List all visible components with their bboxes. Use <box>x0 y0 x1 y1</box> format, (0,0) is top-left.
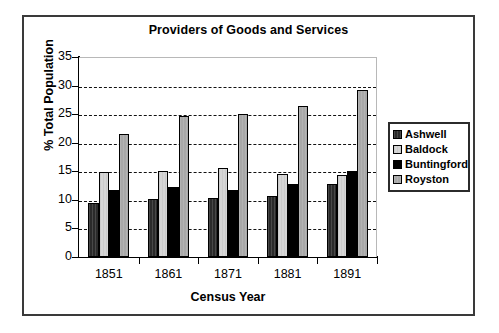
y-axis-tick-30 <box>72 86 79 87</box>
bar-baldock-1871 <box>218 168 228 257</box>
bar-ashwell-1871 <box>208 198 218 257</box>
bar-buntingford-1891 <box>347 171 357 257</box>
legend-label-ashwell: Ashwell <box>405 129 447 140</box>
y-axis-tick-10 <box>72 200 79 201</box>
bar-buntingford-1881 <box>288 184 298 257</box>
x-axis-tick-1871 <box>258 257 259 264</box>
bar-royston-1871 <box>238 114 248 257</box>
x-axis-tick-1851 <box>139 257 140 264</box>
y-axis-label-5: 5 <box>28 220 72 234</box>
bar-baldock-1881 <box>277 174 287 257</box>
y-axis-tick-15 <box>72 171 79 172</box>
x-axis-title: Census Year <box>79 290 377 304</box>
bar-buntingford-1861 <box>168 187 178 257</box>
legend-swatch-buntingford-icon <box>393 160 402 169</box>
y-axis-label-10: 10 <box>28 192 72 206</box>
legend-swatch-royston-icon <box>393 175 402 184</box>
x-axis-tick-1891 <box>377 257 378 264</box>
x-axis-tick-1861 <box>198 257 199 264</box>
bar-ashwell-1881 <box>267 196 277 257</box>
gridline-30 <box>79 87 376 88</box>
legend-label-buntingford: Buntingford <box>405 159 468 170</box>
bar-royston-1891 <box>357 90 367 257</box>
legend-label-royston: Royston <box>405 174 449 185</box>
bar-buntingford-1871 <box>228 190 238 257</box>
legend-swatch-ashwell-icon <box>393 130 402 139</box>
y-axis-tick-20 <box>72 143 79 144</box>
plot-area <box>79 57 377 257</box>
x-axis-tick-1881 <box>317 257 318 264</box>
bar-buntingford-1851 <box>109 190 119 257</box>
y-axis-tick-5 <box>72 228 79 229</box>
bar-ashwell-1861 <box>148 199 158 257</box>
bar-royston-1861 <box>179 116 189 257</box>
bar-baldock-1861 <box>158 171 168 257</box>
bar-ashwell-1891 <box>327 184 337 257</box>
legend-item-ashwell[interactable]: Ashwell <box>393 127 465 142</box>
bar-royston-1851 <box>119 134 129 257</box>
y-axis-tick-25 <box>72 114 79 115</box>
x-axis-label-1891: 1891 <box>312 267 382 281</box>
legend-swatch-baldock-icon <box>393 145 402 154</box>
chart-legend: AshwellBaldockBuntingfordRoyston <box>388 122 470 192</box>
y-axis-tick-35 <box>72 57 79 58</box>
legend-label-baldock: Baldock <box>405 144 448 155</box>
bar-royston-1881 <box>298 106 308 257</box>
gridline-25 <box>79 115 376 116</box>
chart-figure: Providers of Goods and Services 05101520… <box>0 0 499 333</box>
legend-item-baldock[interactable]: Baldock <box>393 142 465 157</box>
chart-title: Providers of Goods and Services <box>22 23 475 37</box>
legend-item-royston[interactable]: Royston <box>393 172 465 187</box>
y-axis-tick-0 <box>72 257 79 258</box>
bar-baldock-1851 <box>99 172 109 257</box>
bar-baldock-1891 <box>337 175 347 257</box>
bar-ashwell-1851 <box>88 203 98 257</box>
y-axis-title: % Total Population <box>42 0 56 190</box>
y-axis-label-0: 0 <box>28 249 72 263</box>
legend-item-buntingford[interactable]: Buntingford <box>393 157 465 172</box>
